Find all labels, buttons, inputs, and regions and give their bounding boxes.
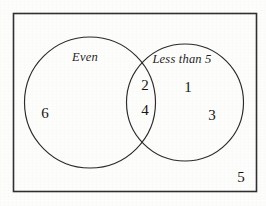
element-intersection-4: 4 [141, 102, 149, 118]
element-less-than-5-only-3: 3 [208, 107, 216, 123]
universal-set-rectangle [14, 14, 257, 192]
element-even-only-6: 6 [41, 105, 49, 121]
element-less-than-5-only-1: 1 [184, 79, 192, 95]
element-outside-5: 5 [237, 169, 245, 185]
venn-diagram-canvas: Even Less than 5 6 2 4 1 3 5 [0, 0, 266, 206]
set-label-even: Even [71, 50, 98, 64]
set-label-less-than-5: Less than 5 [151, 52, 211, 66]
element-intersection-2: 2 [141, 77, 149, 93]
venn-diagram-figure: Even Less than 5 6 2 4 1 3 5 [0, 0, 266, 206]
